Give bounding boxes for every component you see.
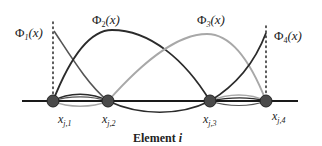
element-basis-functions-diagram: Φ1(x) Φ2(x) Φ3(x) Φ4(x) xj,1 xj,2 xj,3 x… <box>0 0 322 146</box>
phi3-label: Φ3(x) <box>197 12 225 29</box>
lobe-curve <box>108 101 210 112</box>
node-1-label: xj,1 <box>57 112 72 128</box>
phi3-curve <box>108 34 266 101</box>
node-3 <box>204 95 216 107</box>
node-4-label: xj,4 <box>271 109 286 125</box>
node-3-label: xj,3 <box>202 112 217 128</box>
phi1-curve <box>54 31 108 101</box>
phi1-label: Φ1(x) <box>15 25 43 42</box>
node-2 <box>102 95 114 107</box>
element-caption: Element i <box>133 131 183 145</box>
node-2-label: xj,2 <box>101 112 116 128</box>
node-4 <box>260 95 272 107</box>
phi4-curve <box>210 33 266 101</box>
node-1 <box>47 95 59 107</box>
phi4-label: Φ4(x) <box>274 28 302 45</box>
phi2-label: Φ2(x) <box>92 12 120 29</box>
lobe-curve <box>53 94 108 101</box>
